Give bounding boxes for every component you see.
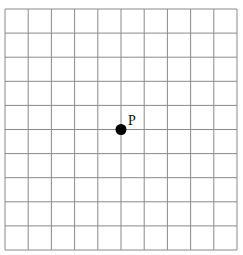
point-p-dot — [116, 124, 127, 135]
point-p-label: P — [128, 113, 136, 128]
grid-diagram: P — [0, 0, 243, 255]
